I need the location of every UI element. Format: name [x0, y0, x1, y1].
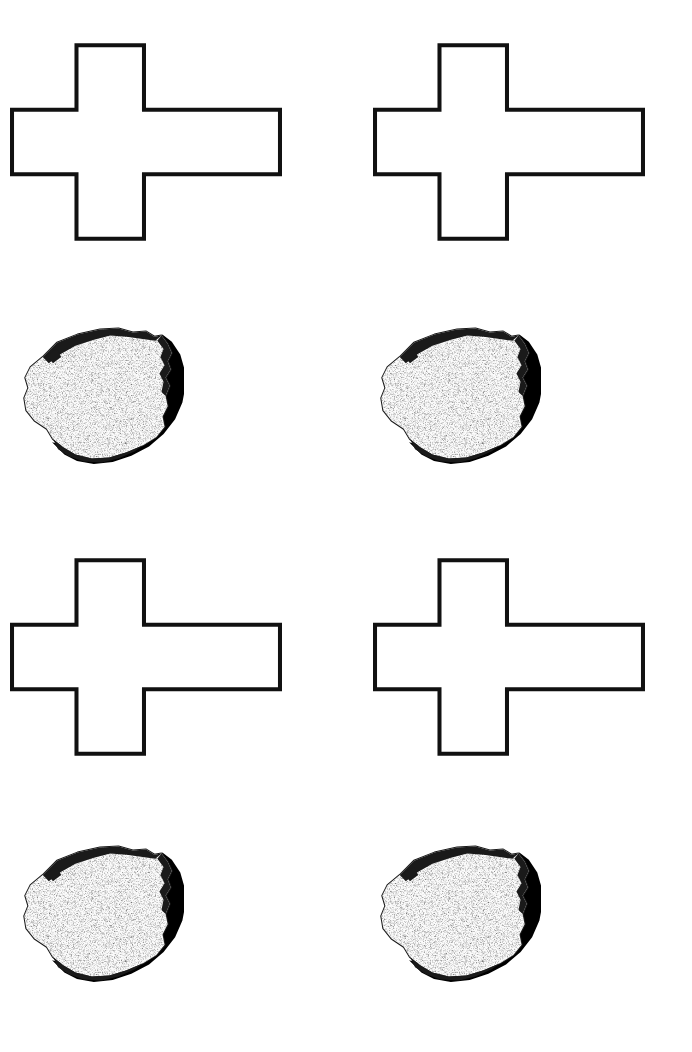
cross-icon	[373, 42, 645, 242]
rock-bottom-rim	[410, 439, 500, 463]
rock-body	[381, 846, 528, 976]
rock-speckle-texture	[381, 846, 528, 976]
rock-top-rim	[400, 846, 519, 881]
rock-bottom-right	[369, 836, 541, 990]
cross-icon	[10, 557, 282, 757]
rock-shadow	[57, 336, 184, 463]
rock-speckle-texture	[24, 328, 171, 458]
cross-outline-path	[12, 560, 280, 753]
rock-right-rim	[157, 336, 171, 396]
rock-blotch-texture	[24, 328, 171, 458]
rock-shadow	[57, 854, 184, 981]
cross-top-right	[373, 42, 645, 242]
cross-outline-path	[12, 45, 280, 238]
rock-bottom-left	[12, 836, 184, 990]
rock-top-right	[369, 318, 541, 472]
cross-icon	[373, 557, 645, 757]
cell-top-right	[0, 0, 692, 1052]
cell-top-left	[0, 0, 692, 1052]
rock-blotch-texture	[381, 846, 528, 976]
rock-right-rim	[514, 854, 528, 914]
rock-notch	[404, 349, 418, 363]
rock-right-rim	[157, 854, 171, 914]
rock-shadow	[414, 854, 541, 981]
cross-outline-path	[375, 560, 643, 753]
rock-top-rim	[400, 328, 519, 363]
cross-bottom-left	[10, 557, 282, 757]
rock-body	[24, 846, 171, 976]
cross-bottom-right	[373, 557, 645, 757]
rock-icon	[369, 836, 541, 990]
cross-outline-path	[375, 45, 643, 238]
rock-body	[381, 328, 528, 458]
rock-icon	[12, 318, 184, 472]
rock-icon	[369, 318, 541, 472]
rock-top-rim	[43, 328, 162, 363]
rock-top-rim	[43, 846, 162, 881]
rock-body	[24, 328, 171, 458]
rock-bottom-rim	[53, 957, 143, 981]
rock-shadow	[414, 336, 541, 463]
rock-notch	[47, 349, 61, 363]
rock-notch	[47, 867, 61, 881]
cross-top-left	[10, 42, 282, 242]
rock-blotch-texture	[381, 328, 528, 458]
rock-speckle-texture	[381, 328, 528, 458]
rock-bottom-rim	[410, 957, 500, 981]
rock-top-left	[12, 318, 184, 472]
rock-blotch-texture	[24, 846, 171, 976]
cell-bottom-left	[0, 0, 692, 1052]
rock-bottom-rim	[53, 439, 143, 463]
rock-icon	[12, 836, 184, 990]
rock-notch	[404, 867, 418, 881]
rock-right-rim	[514, 336, 528, 396]
stimulus-sheet: Stimulus Sheet	[0, 0, 692, 1052]
rock-speckle-texture	[24, 846, 171, 976]
cross-icon	[10, 42, 282, 242]
cell-bottom-right	[0, 0, 692, 1052]
